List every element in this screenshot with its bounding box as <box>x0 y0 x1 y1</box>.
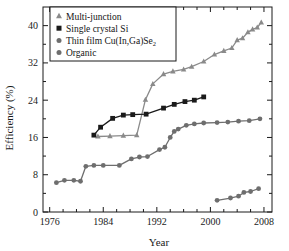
x-tick-label: 1992 <box>147 216 167 227</box>
y-tick-label: 24 <box>28 95 38 106</box>
data-point <box>172 102 177 107</box>
y-tick-label: 0 <box>33 207 38 218</box>
data-point <box>236 194 241 199</box>
x-tick-label: 2000 <box>200 216 220 227</box>
chart-legend: Multi-junctionSingle crystal SiThin film… <box>50 7 176 61</box>
efficiency-chart-figure: 19761984199220002008 0816243240 Year Eff… <box>0 0 289 251</box>
legend-marker-circle <box>57 50 62 55</box>
data-point <box>192 122 197 127</box>
legend-marker-circle <box>57 38 62 43</box>
data-point <box>201 95 206 100</box>
data-point <box>121 113 126 118</box>
data-point <box>130 112 135 117</box>
data-point <box>225 120 230 125</box>
data-point <box>247 118 252 123</box>
data-point <box>183 99 188 104</box>
data-point <box>172 129 177 134</box>
data-point <box>144 112 149 117</box>
data-point <box>176 127 181 132</box>
legend-label: Multi-junction <box>66 12 122 22</box>
data-point <box>236 119 241 124</box>
legend-label: Single crystal Si <box>66 24 129 34</box>
x-tick-label: 1976 <box>40 216 60 227</box>
data-point <box>129 156 134 161</box>
x-tick-label: 1984 <box>93 216 113 227</box>
data-point <box>201 121 206 126</box>
data-point <box>83 164 88 169</box>
data-point <box>137 155 142 160</box>
data-point <box>168 135 173 140</box>
data-point <box>145 154 150 159</box>
data-point <box>54 180 59 185</box>
data-point <box>71 178 76 183</box>
y-axis-label: Efficiency (%) <box>3 85 16 150</box>
data-point <box>78 179 83 184</box>
y-tick-label: 32 <box>28 57 38 68</box>
data-point <box>161 106 166 111</box>
data-point <box>215 120 220 125</box>
data-point <box>157 147 162 152</box>
data-point <box>192 98 197 103</box>
data-point <box>241 190 246 195</box>
x-tick-label: 2008 <box>254 216 274 227</box>
y-tick-label: 8 <box>33 169 38 180</box>
data-point <box>256 186 261 191</box>
data-point <box>117 163 122 168</box>
data-point <box>228 196 233 201</box>
legend-label: Thin film Cu(In,Ga)Se2 <box>66 36 156 47</box>
data-point <box>91 133 96 138</box>
x-axis-label: Year <box>149 236 170 248</box>
y-tick-label: 16 <box>28 132 38 143</box>
y-tick-label: 40 <box>28 20 38 31</box>
data-point <box>184 123 189 128</box>
chart-canvas: 19761984199220002008 0816243240 Year Eff… <box>0 0 289 251</box>
legend-label: Organic <box>66 48 96 58</box>
data-point <box>101 163 106 168</box>
data-point <box>62 178 67 183</box>
data-point <box>258 116 263 121</box>
data-point <box>162 145 167 150</box>
data-point <box>91 163 96 168</box>
data-point <box>110 116 115 121</box>
legend-marker-square <box>57 26 62 31</box>
data-point <box>248 189 253 194</box>
data-point <box>215 198 220 203</box>
data-point <box>98 125 103 130</box>
